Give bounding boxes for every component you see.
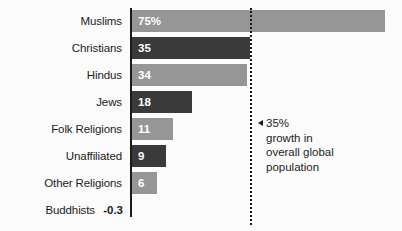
annotation-line-2: growth in xyxy=(266,131,334,146)
bar-value-muslims: 75% xyxy=(138,15,161,27)
category-label-hindus: Hindus xyxy=(0,69,122,81)
left-triangle-icon xyxy=(258,120,263,126)
bar-value-other-religions: 6 xyxy=(138,177,144,189)
category-label-buddhists: Buddhists xyxy=(0,204,95,216)
category-label-unaffiliated: Unaffiliated xyxy=(0,150,122,162)
reference-line-35-percent xyxy=(250,8,252,225)
bar-christians[interactable]: 35 xyxy=(132,37,250,59)
bar-value-folk-religions: 11 xyxy=(138,123,150,135)
category-label-jews: Jews xyxy=(0,96,122,108)
annotation-line-3: overall global xyxy=(266,145,334,160)
annotation-line-1: 35% xyxy=(266,117,289,129)
category-label-other-religions: Other Religions xyxy=(0,177,122,189)
reference-line-annotation: 35% growth in overall global population xyxy=(266,116,334,174)
bar-folk-religions[interactable]: 11 xyxy=(132,118,173,140)
bar-chart: Muslims Christians Hindus Jews Folk Reli… xyxy=(0,0,402,231)
plot-area: 75% 35 34 18 11 9 6 35% growth in ove xyxy=(130,0,402,231)
category-label-folk-religions: Folk Religions xyxy=(0,123,122,135)
bar-muslims[interactable]: 75% xyxy=(132,10,385,32)
bar-jews[interactable]: 18 xyxy=(132,91,192,113)
bar-unaffiliated[interactable]: 9 xyxy=(132,145,166,167)
bar-value-buddhists: -0.3 xyxy=(99,204,123,216)
category-label-muslims: Muslims xyxy=(0,15,122,27)
bar-value-jews: 18 xyxy=(138,96,151,108)
category-label-christians: Christians xyxy=(0,42,122,54)
annotation-line-4: population xyxy=(266,160,334,175)
bar-value-hindus: 34 xyxy=(138,69,151,81)
bar-value-unaffiliated: 9 xyxy=(138,150,144,162)
bar-value-christians: 35 xyxy=(138,42,151,54)
bar-hindus[interactable]: 34 xyxy=(132,64,247,86)
bar-other-religions[interactable]: 6 xyxy=(132,172,157,194)
